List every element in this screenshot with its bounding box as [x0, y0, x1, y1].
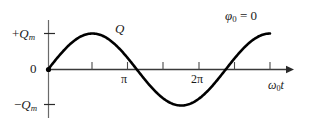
phase-annotation: φ0 = 0 [225, 9, 257, 24]
y-axis-min-label: −Qm [14, 98, 37, 113]
sine-waveform-figure: +Qm −Qm 0 π 2π ω0t Q φ0 = 0 [0, 0, 309, 132]
plot-area [0, 0, 309, 132]
x-axis-arrowhead [286, 66, 294, 73]
origin-label: 0 [30, 62, 37, 75]
curve-label: Q [115, 22, 124, 35]
x-tick-label-pi: π [121, 73, 127, 85]
origin-point-marker [46, 67, 51, 72]
y-axis-max-label: +Qm [12, 27, 35, 42]
x-axis-label: ω0t [268, 79, 284, 93]
x-tick-label-two-pi: 2π [191, 73, 203, 85]
